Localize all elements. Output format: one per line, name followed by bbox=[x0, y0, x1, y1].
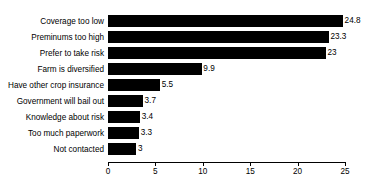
chart-plot-area: Coverage too low24.8Preminums too high23… bbox=[0, 0, 374, 162]
chart-row: Not contacted3 bbox=[0, 142, 374, 158]
category-label: Knowledge about risk bbox=[26, 110, 104, 127]
bar bbox=[108, 15, 343, 27]
bar bbox=[108, 127, 139, 139]
bar-value-label: 5.5 bbox=[160, 79, 173, 91]
chart-row: Have other crop insurance5.5 bbox=[0, 78, 374, 94]
chart-row: Preminums too high23.3 bbox=[0, 30, 374, 46]
bar-value-label: 3 bbox=[136, 143, 142, 155]
category-label: Have other crop insurance bbox=[8, 78, 104, 95]
bar bbox=[108, 111, 140, 123]
chart-row: Coverage too low24.8 bbox=[0, 14, 374, 30]
chart-row: Too much paperwork3.3 bbox=[0, 126, 374, 142]
bar bbox=[108, 47, 326, 59]
x-axis-tick-label: 25 bbox=[333, 167, 357, 177]
chart-row: Government will bail out3.7 bbox=[0, 94, 374, 110]
x-axis-tick-label: 5 bbox=[143, 167, 167, 177]
bar bbox=[108, 79, 160, 91]
bar bbox=[108, 143, 136, 155]
category-label: Government will bail out bbox=[17, 94, 104, 111]
category-label: Prefer to take risk bbox=[40, 46, 104, 63]
bar-value-label: 9.9 bbox=[202, 63, 215, 75]
x-axis-tick bbox=[155, 162, 156, 166]
x-axis-tick bbox=[345, 162, 346, 166]
chart-row: Knowledge about risk3.4 bbox=[0, 110, 374, 126]
bar bbox=[108, 63, 202, 75]
x-axis-tick bbox=[203, 162, 204, 166]
bar bbox=[108, 95, 143, 107]
category-label: Farm is diversified bbox=[38, 62, 104, 79]
chart-row: Farm is diversified9.9 bbox=[0, 62, 374, 78]
chart-row: Prefer to take risk23 bbox=[0, 46, 374, 62]
bar-value-label: 3.4 bbox=[140, 111, 153, 123]
category-label: Too much paperwork bbox=[28, 126, 104, 143]
bar-value-label: 3.3 bbox=[139, 127, 152, 139]
x-axis-tick bbox=[250, 162, 251, 166]
bar bbox=[108, 31, 329, 43]
bar-chart: Coverage too low24.8Preminums too high23… bbox=[0, 0, 374, 189]
x-axis-tick-label: 20 bbox=[286, 167, 310, 177]
bar-value-label: 23 bbox=[326, 47, 337, 59]
bar-value-label: 24.8 bbox=[343, 15, 360, 27]
x-axis-line bbox=[108, 162, 345, 163]
bar-value-label: 23.3 bbox=[329, 31, 346, 43]
category-label: Coverage too low bbox=[40, 14, 104, 31]
x-axis-tick bbox=[108, 162, 109, 166]
category-label: Preminums too high bbox=[31, 30, 104, 47]
category-label: Not contacted bbox=[53, 142, 104, 159]
x-axis-tick-label: 15 bbox=[238, 167, 262, 177]
x-axis-tick-label: 0 bbox=[96, 167, 120, 177]
x-axis-tick bbox=[298, 162, 299, 166]
bar-value-label: 3.7 bbox=[143, 95, 156, 107]
x-axis-tick-label: 10 bbox=[191, 167, 215, 177]
